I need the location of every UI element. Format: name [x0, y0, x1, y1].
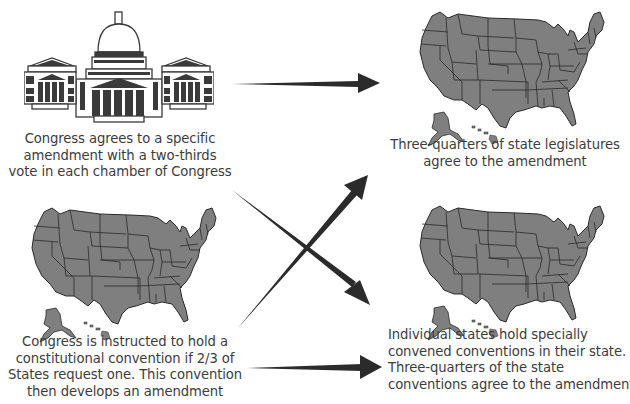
arrow-congress-to-state-conventions	[232, 190, 370, 305]
arrow-congress-to-legislatures	[232, 73, 380, 93]
arrow-convention-to-legislatures	[238, 175, 368, 328]
arrow-convention-to-state-conventions	[246, 355, 382, 379]
